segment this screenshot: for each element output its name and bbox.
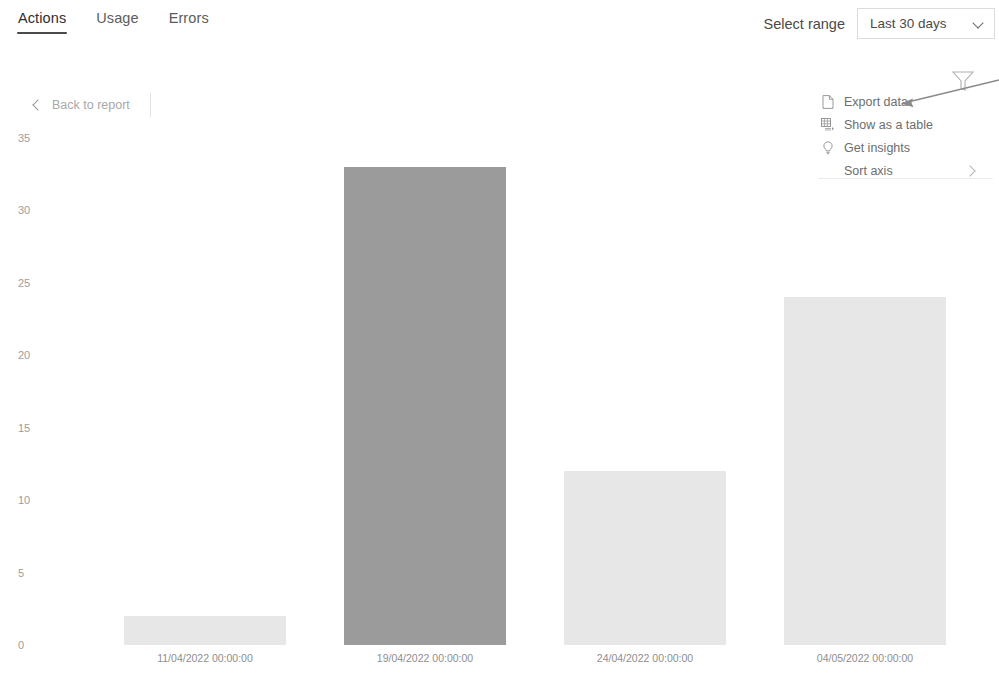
bar-chart: 05101520253035 11/04/2022 00:00:0019/04/… [0,0,999,681]
x-axis-tick-label: 24/04/2022 00:00:00 [597,652,693,664]
x-axis-tick-label: 11/04/2022 00:00:00 [157,652,253,664]
bar-1[interactable] [124,616,286,645]
bar-2[interactable] [344,167,506,645]
y-axis-tick-label: 25 [18,277,52,289]
bar-3[interactable] [564,471,726,645]
y-axis-tick-label: 15 [18,422,52,434]
y-axis-tick-label: 30 [18,204,52,216]
y-axis-tick-label: 20 [18,349,52,361]
bar-4[interactable] [784,297,946,645]
x-axis-tick-label: 19/04/2022 00:00:00 [377,652,473,664]
y-axis-tick-label: 10 [18,494,52,506]
y-axis-tick-label: 35 [18,132,52,144]
x-axis-tick-label: 04/05/2022 00:00:00 [817,652,913,664]
y-axis-tick-label: 5 [18,567,52,579]
y-axis-tick-label: 0 [18,639,52,651]
